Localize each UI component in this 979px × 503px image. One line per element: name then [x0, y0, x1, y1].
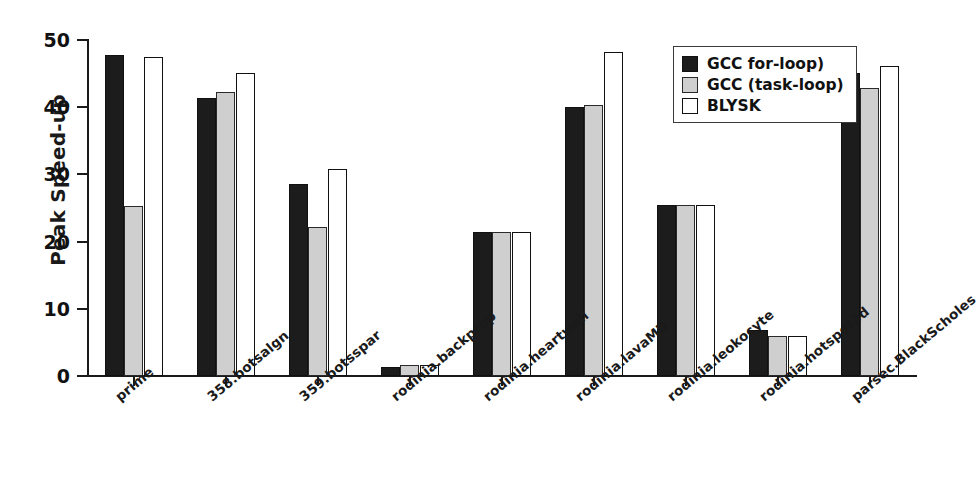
bar-rodinia.leokocyte-GCC (task-loop) — [676, 205, 695, 376]
legend-label-gcc-task-loop: GCC (task-loop) — [707, 76, 844, 94]
bar-rodinia.heartwall-GCC for-loop) — [473, 232, 492, 376]
bar-parsec.BlackScholes-GCC (task-loop) — [860, 88, 879, 376]
y-axis-tick-label: 30 — [24, 163, 70, 185]
y-axis-tick — [77, 241, 87, 243]
y-axis-tick — [77, 106, 87, 108]
y-axis-tick-label: 10 — [24, 298, 70, 320]
y-axis-tick-label: 40 — [24, 96, 70, 118]
legend-item-blysk: BLYSK — [682, 95, 844, 116]
bar-parsec.BlackScholes-BLYSK — [880, 66, 899, 376]
y-axis-tick — [77, 39, 87, 41]
bar-rodinia.heartwall-GCC (task-loop) — [492, 232, 511, 376]
bar-prime-GCC for-loop) — [105, 55, 124, 376]
bar-358.botsalgn-BLYSK — [236, 73, 255, 376]
bar-359.botsspar-BLYSK — [328, 169, 347, 376]
bar-prime-GCC (task-loop) — [124, 206, 143, 376]
bar-358.botsalgn-GCC for-loop) — [197, 98, 216, 376]
y-axis-tick-label: 0 — [24, 365, 70, 387]
y-axis-tick-label: 20 — [24, 231, 70, 253]
legend-item-gcc-task-loop: GCC (task-loop) — [682, 74, 844, 95]
y-axis-tick — [77, 375, 87, 377]
y-axis-tick — [77, 173, 87, 175]
legend-swatch-icon-blysk — [682, 98, 698, 114]
bar-359.botsspar-GCC (task-loop) — [308, 227, 327, 376]
bar-358.botsalgn-GCC (task-loop) — [216, 92, 235, 376]
bar-rodinia.lavaMD-BLYSK — [604, 52, 623, 376]
chart-legend: GCC for-loop) GCC (task-loop) BLYSK — [673, 46, 857, 123]
bar-rodinia.backprop-GCC for-loop) — [381, 367, 400, 376]
bar-359.botsspar-GCC for-loop) — [289, 184, 308, 376]
y-axis-tick-label: 50 — [24, 29, 70, 51]
bar-rodinia.lavaMD-GCC (task-loop) — [584, 105, 603, 376]
legend-item-gcc-for-loop: GCC for-loop) — [682, 53, 844, 74]
legend-swatch-icon-gcc-task-loop — [682, 77, 698, 93]
legend-label-blysk: BLYSK — [707, 97, 761, 115]
bar-rodinia.leokocyte-GCC for-loop) — [657, 205, 676, 376]
y-axis-tick — [77, 308, 87, 310]
legend-swatch-icon-gcc-for-loop — [682, 56, 698, 72]
legend-label-gcc-for-loop: GCC for-loop) — [707, 55, 824, 73]
bar-prime-BLYSK — [144, 57, 163, 376]
